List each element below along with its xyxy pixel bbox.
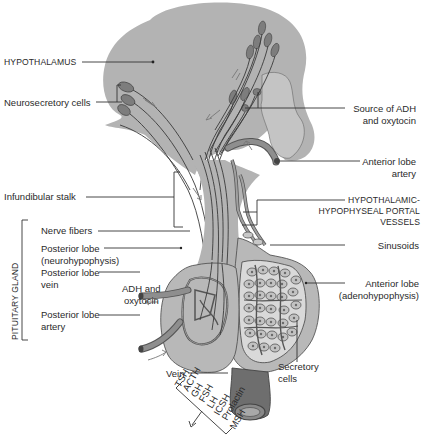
label-anterior-lobe-artery-1: Anterior lobe [362, 156, 416, 167]
label-sinusoids: Sinusoids [378, 240, 419, 251]
label-portal-vessels-1: HYPOTHALAMIC- [348, 195, 420, 205]
pituitary-diagram: HYPOTHALAMUS Neurosecretory cells Source… [0, 0, 423, 437]
label-adh-oxytocin-1: ADH and [122, 283, 161, 294]
label-posterior-lobe-vein-1: Posterior lobe [41, 267, 100, 278]
label-anterior-lobe-artery-2: artery [392, 168, 417, 179]
label-posterior-lobe-1: Posterior lobe [41, 243, 100, 254]
label-anterior-lobe-2: (adenohypophysis) [339, 290, 419, 301]
label-nerve-fibers: Nerve fibers [41, 225, 92, 236]
label-posterior-lobe-vein-2: vein [41, 279, 58, 290]
label-neurosecretory-cells: Neurosecretory cells [4, 97, 91, 108]
label-source-adh-1: Source of ADH [353, 103, 416, 114]
label-secretory-cells-2: cells [278, 373, 297, 384]
label-secretory-cells-1: Secretory [278, 361, 319, 372]
label-pituitary-gland: PITUITARY GLAND [10, 263, 20, 340]
label-infundibular-stalk: Infundibular stalk [4, 191, 76, 202]
label-portal-vessels-3: VESSELS [380, 217, 420, 227]
label-portal-vessels-2: HYPOPHYSEAL PORTAL [319, 206, 421, 216]
label-hypothalamus: HYPOTHALAMUS [4, 57, 77, 67]
label-posterior-lobe-artery-2: artery [41, 321, 66, 332]
label-source-adh-2: and oxytocin [363, 115, 416, 126]
label-posterior-lobe-artery-1: Posterior lobe [41, 309, 100, 320]
label-posterior-lobe-2: (neurohypophysis) [41, 255, 119, 266]
label-adh-oxytocin-2: oxytocin [124, 295, 159, 306]
label-anterior-lobe-1: Anterior lobe [365, 278, 419, 289]
